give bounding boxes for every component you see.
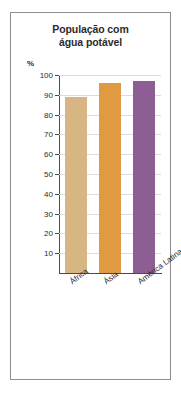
y-axis-tick-label: 60 [44, 150, 53, 159]
bar [133, 81, 155, 273]
y-axis-tick-mark [55, 233, 59, 234]
y-axis-tick-mark [55, 115, 59, 116]
plot-area: 102030405060708090100 [59, 75, 161, 273]
chart-figure-frame: População com água potável % 10203040506… [10, 12, 171, 380]
y-axis-tick-mark [55, 75, 59, 76]
y-axis-tick-label: 90 [44, 90, 53, 99]
y-axis-tick-label: 10 [44, 249, 53, 258]
y-axis-tick-label: 100 [40, 71, 53, 80]
y-axis-tick-mark [55, 194, 59, 195]
y-axis-tick-label: 70 [44, 130, 53, 139]
y-axis-tick-label: 50 [44, 170, 53, 179]
y-axis-tick-label: 40 [44, 189, 53, 198]
y-axis-tick-label: 20 [44, 229, 53, 238]
y-axis-tick-label: 30 [44, 209, 53, 218]
gridline [59, 75, 161, 76]
y-axis-tick-label: 80 [44, 110, 53, 119]
y-axis-tick-mark [55, 174, 59, 175]
y-axis-tick-mark [55, 253, 59, 254]
y-axis-tick-mark [55, 95, 59, 96]
bar [99, 83, 121, 273]
y-axis-tick-mark [55, 214, 59, 215]
y-axis-tick-mark [55, 154, 59, 155]
bar [65, 97, 87, 273]
plot-wrapper: 102030405060708090100 ÁfricaÁsiaAmérica … [11, 13, 172, 381]
y-axis-tick-mark [55, 134, 59, 135]
